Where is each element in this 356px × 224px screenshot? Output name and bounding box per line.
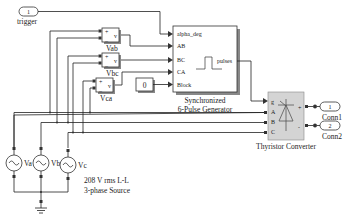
voltage-measurement-vab[interactable]: + _ v — [102, 28, 121, 44]
svg-text:CA: CA — [177, 69, 186, 75]
trigger-label: trigger — [17, 17, 37, 26]
svg-text:AB: AB — [177, 43, 185, 49]
svg-text:g: g — [271, 99, 274, 105]
svg-text:v: v — [108, 83, 111, 89]
constant-block[interactable]: 0 — [136, 78, 155, 93]
svg-text:v: v — [114, 58, 117, 64]
conn2-label: Conn2 — [322, 132, 342, 141]
svg-text:A: A — [271, 109, 276, 115]
svg-text:B: B — [271, 119, 275, 125]
svg-text:-: - — [298, 124, 300, 130]
vc-label: Vc — [78, 161, 87, 170]
vab-label: Vab — [106, 44, 118, 53]
thyristor-converter-block[interactable]: g A B C + - — [268, 92, 304, 140]
converter-label: Thyristor Converter — [256, 142, 316, 151]
svg-text:Block: Block — [177, 82, 191, 88]
svg-text:1: 1 — [329, 104, 332, 110]
simulink-diagram: 1 trigger + _ v Vab + _ v Vbc + _ v Vca — [0, 0, 356, 224]
source-va[interactable] — [6, 147, 22, 178]
svg-text:pulses: pulses — [217, 58, 233, 64]
vbc-label: Vbc — [106, 69, 119, 78]
svg-text:BC: BC — [177, 57, 185, 63]
trigger-port-number: 1 — [27, 9, 30, 15]
constant-value: 0 — [143, 81, 147, 90]
conn1-outport[interactable]: 1 — [320, 102, 340, 111]
svg-text:2: 2 — [329, 123, 332, 129]
source-note-line1: 208 V rms L-L — [84, 176, 129, 185]
ground-icon — [35, 203, 47, 213]
trigger-inport[interactable]: 1 — [19, 7, 38, 16]
svg-text:alpha_deg: alpha_deg — [177, 31, 202, 37]
pulse-generator-name-line1: Synchronized — [184, 96, 225, 105]
svg-text:v: v — [114, 33, 117, 39]
vb-label: Vb — [51, 159, 60, 168]
source-note-line2: 3-phase Source — [84, 186, 131, 195]
va-label: Va — [24, 159, 33, 168]
voltage-measurement-vbc[interactable]: + _ v — [102, 53, 121, 69]
voltage-measurement-vca[interactable]: + _ v — [96, 78, 115, 94]
source-vb[interactable] — [33, 147, 49, 178]
pulse-generator-block[interactable]: alpha_deg AB BC CA Block pulses — [173, 26, 240, 95]
svg-text:C: C — [271, 129, 275, 135]
vca-label: Vca — [100, 94, 113, 103]
source-vc[interactable] — [60, 149, 76, 180]
conn2-outport[interactable]: 2 — [320, 121, 340, 130]
